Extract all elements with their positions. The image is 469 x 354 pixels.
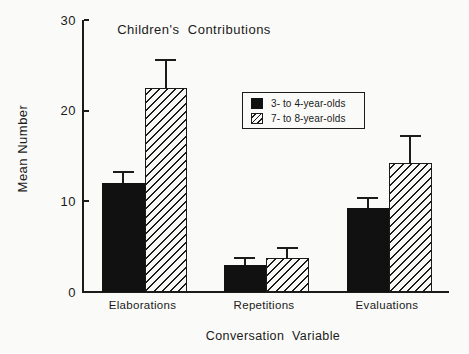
error-cap-evaluations-younger xyxy=(357,197,378,199)
category-label-elaborations: Elaborations xyxy=(78,299,208,311)
bar-elaborations-younger xyxy=(102,183,145,292)
error-bar-evaluations-older xyxy=(409,136,411,164)
error-cap-repetitions-younger xyxy=(234,257,255,259)
y-tick-label-0: 0 xyxy=(38,285,76,300)
x-axis-title: Conversation Variable xyxy=(173,329,373,343)
legend: 3- to 4-year-olds 7- to 8-year-olds xyxy=(242,92,365,129)
error-cap-repetitions-older xyxy=(277,247,298,249)
y-tick-label-20: 20 xyxy=(38,103,76,118)
error-bar-elaborations-older xyxy=(165,60,167,89)
bar-repetitions-older xyxy=(266,258,309,292)
y-tick-mark-30 xyxy=(84,19,89,21)
category-label-repetitions: Repetitions xyxy=(199,299,329,311)
bar-repetitions-younger xyxy=(224,265,267,292)
y-tick-label-30: 30 xyxy=(38,13,76,28)
legend-swatch-hatch-icon xyxy=(251,113,263,124)
category-label-evaluations: Evaluations xyxy=(322,299,452,311)
y-tick-mark-20 xyxy=(84,110,89,112)
bar-elaborations-older xyxy=(145,88,188,292)
legend-item-older: 7- to 8-year-olds xyxy=(251,112,364,125)
bar-chart-figure: Children's Contributions Mean Number 010… xyxy=(0,0,469,354)
bar-evaluations-older xyxy=(389,163,432,292)
legend-item-younger: 3- to 4-year-olds xyxy=(251,97,364,110)
y-tick-mark-10 xyxy=(84,200,89,202)
legend-swatch-solid-icon xyxy=(251,98,263,109)
chart-title: Children's Contributions xyxy=(94,22,294,37)
legend-label-younger: 3- to 4-year-olds xyxy=(271,98,346,109)
legend-label-older: 7- to 8-year-olds xyxy=(271,113,346,124)
y-axis-label: Mean Number xyxy=(15,104,30,194)
error-cap-evaluations-older xyxy=(400,135,421,137)
error-cap-elaborations-older xyxy=(155,59,176,61)
y-tick-label-10: 10 xyxy=(38,194,76,209)
bar-evaluations-younger xyxy=(347,208,390,292)
error-cap-elaborations-younger xyxy=(113,171,134,173)
y-axis-line xyxy=(82,20,84,293)
